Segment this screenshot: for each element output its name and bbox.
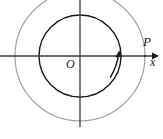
label-axis-x: x — [150, 56, 155, 68]
label-point-p: P — [143, 35, 151, 48]
point-p-marker — [144, 55, 146, 57]
geometry-figure: P x O — [0, 0, 163, 139]
figure-canvas — [0, 0, 163, 139]
label-origin-o: O — [66, 58, 75, 70]
